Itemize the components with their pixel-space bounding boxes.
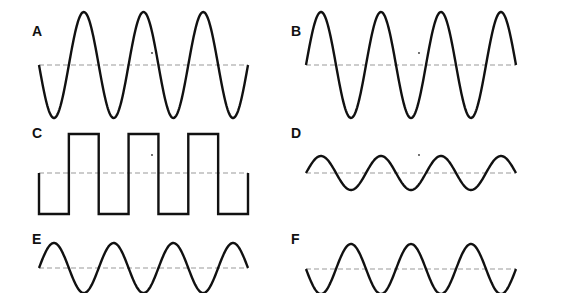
panel-label-c: C (32, 126, 42, 140)
panel-b (306, 12, 516, 118)
panel-label-a: A (32, 24, 42, 38)
square-wave (39, 134, 248, 214)
panel-label-f: F (291, 232, 300, 246)
panel-c (39, 134, 248, 214)
panel-e (39, 243, 248, 293)
dot-marker (418, 52, 420, 54)
dot-marker (151, 154, 153, 156)
panel-label-d: D (291, 126, 301, 140)
panel-d (306, 156, 516, 190)
dot-marker (151, 52, 153, 54)
panel-label-e: E (32, 232, 41, 246)
dot-marker (418, 154, 420, 156)
panel-f (306, 244, 516, 293)
panel-a (39, 12, 248, 118)
waveform-figure (0, 0, 561, 293)
panel-label-b: B (291, 24, 301, 38)
